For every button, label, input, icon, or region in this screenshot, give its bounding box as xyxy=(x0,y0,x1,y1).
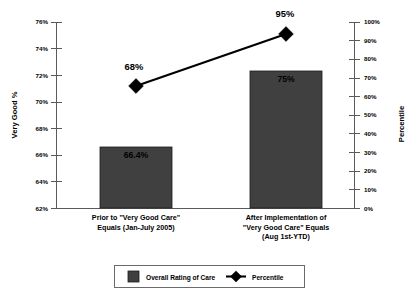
y-tick-label-74: 74% xyxy=(36,45,49,52)
bar-series-overall-rating-of-care: 66.4% 75% xyxy=(100,71,322,208)
bar-after-implementation[interactable] xyxy=(250,71,322,208)
x-axis-category-labels: Prior to "Very Good Care" Equals (Jan-Ju… xyxy=(92,213,329,241)
y-tick-label-76: 76% xyxy=(36,18,49,25)
y2-tick-label-60: 60% xyxy=(364,93,377,100)
y-axis-title: Very Good % xyxy=(10,91,19,138)
y2-tick-label-20: 20% xyxy=(364,167,377,174)
category-label-2-line-2: "Very Good Care" Equals xyxy=(243,223,329,232)
right-axis: 0% 10% 20% 30% 40% 50% 60% 70% 80% 90% 1… xyxy=(349,18,406,211)
y2-tick-label-10: 10% xyxy=(364,186,377,193)
chart-container: 62% 64% 66% 68% 70% 72% 74% 76% Very Goo… xyxy=(0,0,418,297)
bar-label-after: 75% xyxy=(277,74,295,84)
y2-tick-label-80: 80% xyxy=(364,55,377,62)
legend-label-percentile: Percentile xyxy=(252,274,284,281)
y-tick-label-64: 64% xyxy=(36,178,49,185)
percentile-marker-prior[interactable] xyxy=(129,79,144,94)
legend-item-percentile[interactable]: Percentile xyxy=(226,271,284,282)
bar-label-prior: 66.4% xyxy=(124,150,149,160)
y2-tick-label-0: 0% xyxy=(364,205,373,212)
y-tick-label-66: 66% xyxy=(36,151,49,158)
percentile-label-after: 95% xyxy=(276,8,295,19)
chart-canvas: 62% 64% 66% 68% 70% 72% 74% 76% Very Goo… xyxy=(0,0,418,297)
y2-tick-label-30: 30% xyxy=(364,149,377,156)
percentile-marker-after[interactable] xyxy=(279,27,294,42)
legend-label-overall-rating: Overall Rating of Care xyxy=(146,274,216,282)
y-tick-label-68: 68% xyxy=(36,125,49,132)
y2-tick-label-40: 40% xyxy=(364,130,377,137)
y-tick-label-72: 72% xyxy=(36,72,49,79)
legend-item-overall-rating-of-care[interactable]: Overall Rating of Care xyxy=(128,271,216,282)
legend-swatch-icon xyxy=(128,271,139,282)
y-tick-label-62: 62% xyxy=(36,205,49,212)
y2-tick-label-50: 50% xyxy=(364,111,377,118)
y2-axis-title: Percentile xyxy=(397,106,406,142)
percentile-label-prior: 68% xyxy=(125,61,144,72)
category-label-2-line-1: After Implementation of xyxy=(246,213,327,222)
category-label-1-line-2: Equals (Jan-July 2005) xyxy=(97,223,175,232)
y2-tick-label-100: 100% xyxy=(364,18,380,25)
legend-diamond-icon xyxy=(230,271,241,282)
chart-legend: Overall Rating of Care Percentile xyxy=(115,266,305,288)
y-tick-label-70: 70% xyxy=(36,98,49,105)
category-label-1-line-1: Prior to "Very Good Care" xyxy=(92,213,180,222)
category-label-2-line-3: (Aug 1st-YTD) xyxy=(262,232,311,241)
y2-tick-label-90: 90% xyxy=(364,37,377,44)
y2-tick-label-70: 70% xyxy=(364,74,377,81)
